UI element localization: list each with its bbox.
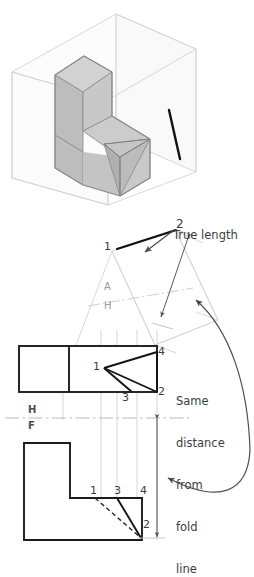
top-view xyxy=(19,346,157,392)
true-length-leader xyxy=(145,230,174,252)
fold-line-a-h xyxy=(88,288,193,306)
same-distance-curved-arrow xyxy=(196,300,250,450)
aux-distance-dimension xyxy=(152,230,196,329)
true-length-line xyxy=(117,230,176,249)
same-distance-curved-arrow-lower xyxy=(168,450,250,492)
front-view xyxy=(24,443,142,540)
note-line-5: line xyxy=(176,562,225,576)
